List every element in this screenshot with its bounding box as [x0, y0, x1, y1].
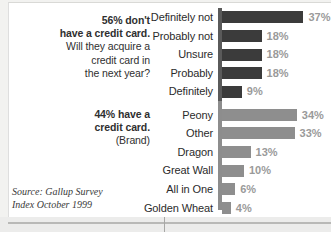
source-line-1: Source: Gallup Survey	[12, 186, 103, 197]
value-label: 4%	[236, 199, 252, 218]
value-label: 18%	[267, 45, 289, 64]
chart-figure: 56% don't have a credit card. Will they …	[0, 0, 331, 232]
bar	[222, 109, 297, 121]
category-label: Great Wall	[93, 161, 213, 180]
value-label: 18%	[267, 27, 289, 46]
bar	[222, 67, 262, 79]
category-label: Dragon	[93, 143, 213, 162]
bar	[222, 30, 262, 42]
bar	[222, 86, 242, 98]
category-label: Definitely not	[93, 8, 213, 27]
category-label: All in One	[93, 180, 213, 199]
category-label: Definitely	[93, 82, 213, 101]
bar	[222, 49, 262, 61]
page-gutter-band	[0, 217, 331, 232]
category-label: Probably	[93, 64, 213, 83]
value-label: 10%	[249, 161, 271, 180]
value-label: 9%	[247, 82, 263, 101]
bar-row: Dragon13%	[150, 143, 331, 162]
bar	[222, 11, 303, 23]
bar-row: Probably18%	[150, 64, 331, 83]
bar-row: Great Wall10%	[150, 161, 331, 180]
value-label: 13%	[256, 143, 278, 162]
value-label: 18%	[267, 64, 289, 83]
category-label: Other	[93, 124, 213, 143]
value-label: 33%	[300, 124, 322, 143]
value-label: 34%	[302, 106, 324, 125]
bar	[222, 202, 231, 214]
bar-row: Other33%	[150, 124, 331, 143]
plot-area: Definitely not37%Probably not18%Unsure18…	[150, 6, 331, 214]
bar	[222, 127, 295, 139]
bar	[222, 165, 244, 177]
bar	[222, 183, 235, 195]
value-label: 37%	[308, 8, 330, 27]
category-label: Unsure	[93, 45, 213, 64]
bar-row: Peony34%	[150, 106, 331, 125]
page-gutter-seam	[164, 217, 165, 232]
bar-row: Definitely not37%	[150, 8, 331, 27]
bar-row: Definitely9%	[150, 82, 331, 101]
page-gutter-rule	[8, 222, 331, 224]
value-label: 6%	[240, 180, 256, 199]
category-label: Peony	[93, 106, 213, 125]
bar-row: All in One6%	[150, 180, 331, 199]
bar-row: Unsure18%	[150, 45, 331, 64]
bar-row: Probably not18%	[150, 27, 331, 46]
source-line-2: Index October 1999	[12, 199, 92, 210]
bar-row: Golden Wheat4%	[150, 199, 331, 218]
category-label: Golden Wheat	[93, 199, 213, 218]
category-label: Probably not	[93, 27, 213, 46]
bar	[222, 146, 251, 158]
